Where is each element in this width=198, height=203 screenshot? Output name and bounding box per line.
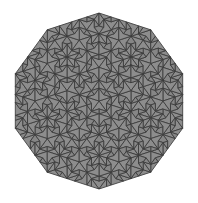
rhombus-tiles-group: [15, 13, 182, 189]
penrose-tiling-canvas: [0, 0, 198, 203]
penrose-tiling-figure: Penrose rhombus tiling patch Decagonal p…: [0, 0, 198, 203]
